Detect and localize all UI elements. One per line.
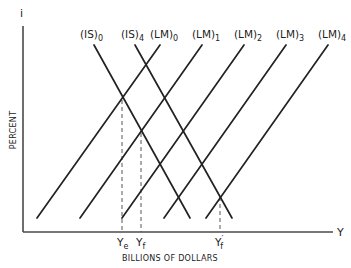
y-axis-symbol: i [20, 7, 23, 20]
axes: i Y PERCENT BILLIONS OF DOLLARS [9, 7, 344, 263]
equilibrium-label-1: Yf [135, 236, 145, 251]
equilibrium-labels: YeYfY′f [116, 235, 223, 251]
lm-label-4: (LM)4 [318, 28, 346, 43]
is-lm-diagram: i Y PERCENT BILLIONS OF DOLLARS (IS)0(IS… [0, 0, 351, 268]
lm-label-3: (LM)3 [276, 28, 304, 43]
is-label-4: (IS)4 [121, 28, 144, 43]
is-label-0: (IS)0 [80, 28, 103, 43]
y-axis-label: PERCENT [9, 111, 18, 150]
x-axis-symbol: Y [336, 226, 344, 239]
curves [37, 45, 328, 218]
lm-label-1: (LM)1 [192, 28, 220, 43]
equilibrium-label-0: Ye [116, 236, 128, 251]
x-axis-label: BILLIONS OF DOLLARS [122, 254, 218, 263]
guide-lines [122, 100, 220, 232]
curve-labels: (IS)0(IS)4(LM)0(LM)1(LM)2(LM)3(LM)4 [80, 28, 346, 43]
lm-label-0: (LM)0 [150, 28, 178, 43]
lm-label-2: (LM)2 [234, 28, 262, 43]
equilibrium-label-2: Y′f [214, 235, 223, 251]
